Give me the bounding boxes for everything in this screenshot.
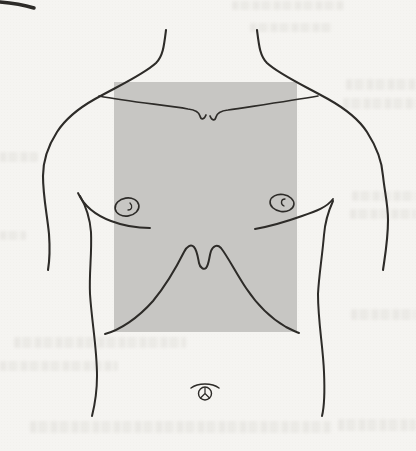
waist-line-left (80, 196, 97, 416)
scan-speck (292, 382, 294, 384)
scan-corner-mark (0, 2, 34, 8)
shaded-chest-region-texture (114, 82, 297, 332)
scanned-page (0, 0, 416, 451)
scan-speck (98, 178, 100, 180)
navel-inner-spokes (201, 388, 210, 399)
waist-line-right (318, 201, 333, 416)
torso-diagram (0, 0, 416, 451)
